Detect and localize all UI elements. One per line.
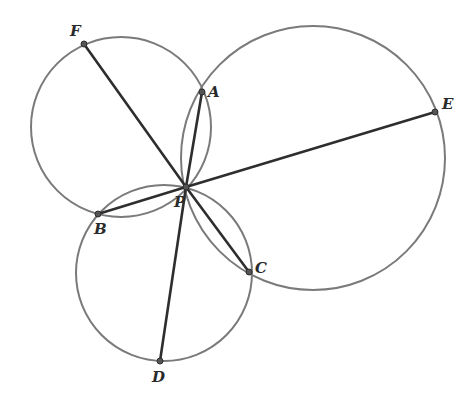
label-B: B [94, 222, 107, 237]
segment-PF [84, 44, 186, 187]
label-P: P [174, 195, 185, 210]
label-F: F [70, 24, 81, 39]
point-E [432, 109, 438, 115]
label-C: C [255, 261, 267, 276]
circles-group [31, 26, 445, 361]
segment-PD [160, 187, 186, 361]
segments-group [84, 44, 435, 361]
point-B [95, 211, 101, 217]
label-E: E [442, 97, 453, 112]
circle-PE [181, 26, 445, 290]
point-C [246, 269, 252, 275]
label-D: D [152, 370, 165, 385]
point-A [199, 89, 205, 95]
point-P [183, 184, 189, 190]
point-F [81, 41, 87, 47]
geometry-diagram [0, 0, 471, 396]
point-D [157, 358, 163, 364]
segment-PE [186, 112, 435, 187]
label-A: A [208, 85, 220, 100]
